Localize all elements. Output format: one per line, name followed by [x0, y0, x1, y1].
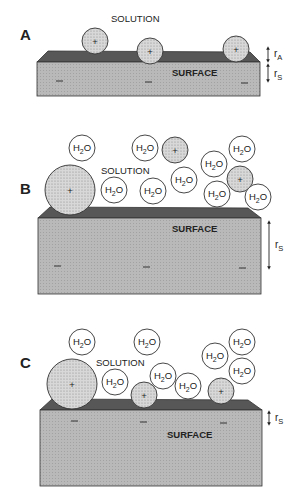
solution-label: SOLUTION [111, 13, 160, 24]
r-s-label: rS [275, 412, 283, 426]
surface-slab [38, 218, 261, 294]
hydrated-cation: + [47, 359, 97, 409]
cation: + [131, 382, 157, 408]
ion-adsorption-diagram: A SOLUTION SURFACE + + + rA rS B SOLUTIO… [0, 0, 304, 503]
panel-label-c: C [20, 354, 31, 371]
water-molecule: H2O [229, 329, 255, 355]
water-molecule: H2O [171, 167, 197, 193]
panel-label-a: A [20, 26, 31, 43]
svg-text:+: + [92, 36, 98, 47]
cation: + [162, 137, 188, 163]
svg-text:+: + [141, 390, 147, 401]
r-s-label: rS [274, 68, 282, 82]
water-molecule: H2O [245, 184, 271, 210]
svg-text:+: + [67, 185, 73, 196]
svg-text:+: + [233, 44, 239, 55]
water-molecule: H2O [134, 329, 160, 355]
water-molecule: H2O [201, 151, 227, 177]
cation: + [208, 378, 234, 404]
surface-slab [37, 62, 260, 96]
svg-text:+: + [147, 46, 153, 57]
water-molecule: H2O [140, 178, 166, 204]
solution-label: SOLUTION [101, 165, 150, 176]
hydrated-cation: + [45, 165, 95, 215]
water-molecule: H2O [69, 329, 95, 355]
water-molecule: H2O [204, 181, 230, 207]
panel-label-b: B [20, 180, 31, 197]
solution-label: SOLUTION [96, 357, 145, 368]
r-a-label: rA [274, 48, 282, 62]
panel-b: B SOLUTION SURFACE + + + H2O H2O [20, 135, 283, 294]
svg-text:+: + [237, 174, 243, 185]
cation: + [137, 38, 163, 64]
surface-label: SURFACE [172, 67, 217, 78]
water-molecule: H2O [69, 135, 95, 161]
r-s-label: rS [275, 239, 283, 253]
water-molecule: H2O [175, 373, 201, 399]
svg-text:+: + [172, 145, 178, 156]
surface-label: SURFACE [167, 429, 212, 440]
water-molecule: H2O [229, 136, 255, 162]
svg-text:+: + [218, 386, 224, 397]
water-molecule: H2O [102, 369, 128, 395]
cation: + [82, 28, 108, 54]
water-molecule: H2O [202, 343, 228, 369]
water-molecule: H2O [101, 177, 127, 203]
surface-label: SURFACE [172, 223, 217, 234]
svg-text:+: + [69, 379, 75, 390]
water-molecule: H2O [132, 135, 158, 161]
panel-c: C SOLUTION SURFACE + + + H2O H2O [20, 329, 283, 486]
water-molecule: H2O [229, 358, 255, 384]
water-molecule: H2O [150, 363, 176, 389]
cation: + [223, 36, 249, 62]
panel-a: A SOLUTION SURFACE + + + rA rS [20, 13, 282, 96]
